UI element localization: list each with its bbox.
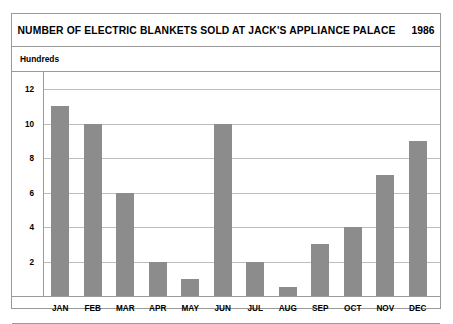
bar-slot [174,72,207,296]
bar [116,193,134,296]
bar [311,244,329,296]
bar-slot [77,72,110,296]
bars-layer [44,72,434,296]
bar [279,287,297,296]
bar-slot [304,72,337,296]
plot-region: 24681012 JANFEBMARAPRMAYJUNJULAUGSEPOCTN… [12,72,440,308]
bar [181,279,199,296]
bar-slot [142,72,175,296]
x-axis-line [12,296,440,297]
y-tick-label: 10 [8,119,34,128]
bar-slot [272,72,305,296]
bar [149,262,167,296]
chart-title-band: NUMBER OF ELECTRIC BLANKETS SOLD AT JACK… [12,14,440,47]
bar [214,124,232,296]
x-tick-label: NOV [369,304,402,313]
bar-slot [207,72,240,296]
x-tick-label: JAN [44,304,77,313]
bar-slot [402,72,435,296]
bar-slot [337,72,370,296]
x-tick-label: JUN [207,304,240,313]
x-tick-label: MAR [109,304,142,313]
chart-title: NUMBER OF ELECTRIC BLANKETS SOLD AT JACK… [18,25,396,36]
y-tick-label: 12 [8,85,34,94]
bar [376,175,394,296]
x-tick-label: OCT [337,304,370,313]
x-tick-label: DEC [402,304,435,313]
x-tick-label: APR [142,304,175,313]
x-tick-label: JUL [239,304,272,313]
x-tick-label: AUG [272,304,305,313]
y-axis-units-label: Hundreds [20,54,59,64]
bar-slot [109,72,142,296]
bar [344,227,362,296]
bar [409,141,427,296]
bar-slot [239,72,272,296]
bar [51,106,69,296]
chart-year: 1986 [412,25,435,36]
x-tick-label: FEB [77,304,110,313]
bar-slot [44,72,77,296]
y-tick-label: 6 [8,188,34,197]
bar-slot [369,72,402,296]
units-band: Hundreds [12,47,440,72]
bar [84,124,102,296]
x-tick-label: MAY [174,304,207,313]
bar [246,262,264,296]
y-tick-label: 8 [8,154,34,163]
x-tick-label: SEP [304,304,337,313]
y-tick-label: 2 [8,257,34,266]
y-tick-label: 4 [8,223,34,232]
chart-frame: NUMBER OF ELECTRIC BLANKETS SOLD AT JACK… [11,13,441,309]
